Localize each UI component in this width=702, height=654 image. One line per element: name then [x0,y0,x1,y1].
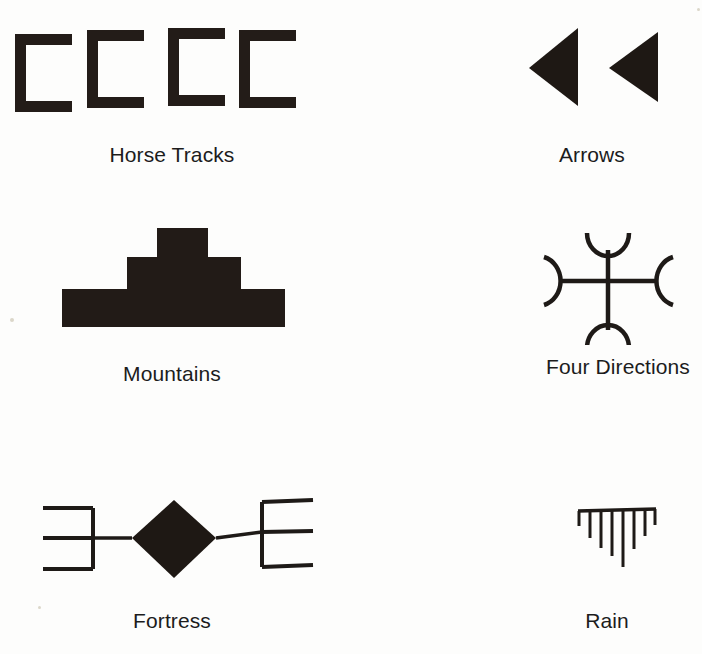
caption-mountains: Mountains [47,362,297,386]
horse-tracks-symbol [0,0,351,125]
caption-fortress: Fortress [47,609,297,633]
symbol-cell-arrows: Arrows [440,0,702,180]
bracket-glyph [168,28,225,106]
bracket-glyph [15,34,72,112]
caption-horse-tracks: Horse Tracks [47,143,297,167]
fortress-right-prong [262,531,313,532]
mountain-tier-top [157,228,208,259]
mountain-tier-base [62,289,285,327]
caption-arrows: Arrows [467,143,702,167]
fortress-right-prong [262,565,313,567]
symbol-cell-rain: Rain [440,470,702,654]
direction-arc-east [656,257,673,305]
arrow-triangle [609,32,658,102]
direction-arc-west [544,257,561,305]
caption-four-directions: Four Directions [493,355,702,379]
symbol-cell-horse-tracks: Horse Tracks [0,0,351,180]
mountains-symbol [0,200,351,340]
four-directions-symbol [440,200,702,345]
fortress-diamond [132,500,216,578]
bracket-glyph [87,30,144,108]
arrow-triangle [529,28,578,106]
fortress-symbol [0,470,351,595]
symbol-cell-fortress: Fortress [0,470,351,654]
mountain-tier-middle [127,257,241,291]
bracket-glyph [239,30,296,108]
fortress-right-prong [262,500,313,502]
arrows-symbol [440,0,702,125]
fortress-right-connector [216,532,262,538]
caption-rain: Rain [482,609,702,633]
rain-symbol [440,470,702,595]
symbol-cell-four-directions: Four Directions [440,200,702,390]
symbol-cell-mountains: Mountains [0,200,351,390]
figure-plate: Horse Tracks Arrows Mountains [0,0,702,654]
